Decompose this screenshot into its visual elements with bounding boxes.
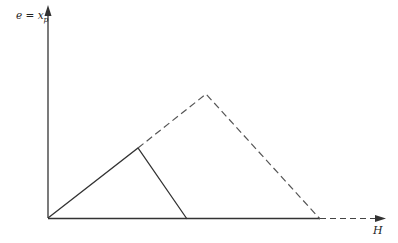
dashed-path — [138, 94, 320, 219]
solid-path — [48, 148, 187, 219]
x-axis-label: H — [372, 224, 383, 237]
y-axis-label: e = xp — [16, 9, 49, 24]
x-axis-arrow-icon — [375, 215, 386, 222]
diagram-canvas: e = xp H — [0, 0, 398, 243]
